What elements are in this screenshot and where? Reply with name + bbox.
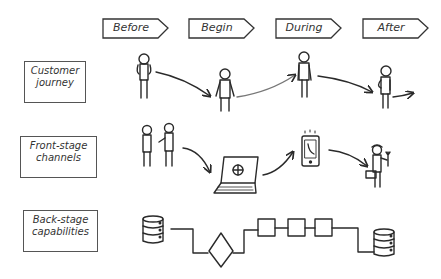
two-people-talking-icon [143,124,174,167]
stick-figure-before-icon [137,54,151,98]
process-box-icon [315,219,332,236]
journey-arrow-icon [393,93,413,97]
technician-with-toolbox-icon [366,145,390,187]
stick-figure-during-icon [298,52,311,97]
laptop-with-globe-icon [214,157,258,193]
channel-arrow-icon [263,152,293,175]
channel-arrow-icon [183,148,210,172]
wrench-icon [386,152,390,166]
connector-line [233,230,258,253]
process-box-icon [288,219,305,236]
process-box-icon [258,219,275,236]
journey-arrow-icon [237,75,295,97]
stick-figure-after-icon [379,66,392,108]
journey-arrow-icon [318,76,372,92]
journey-arrow-icon [156,72,210,96]
database-icon [143,216,163,243]
database-icon [374,229,394,256]
connector-line [332,228,374,252]
connector-line [171,229,208,253]
customer-journey-diagram: Before Begin During After Customer journ… [0,0,441,279]
channel-arrow-icon [329,150,367,166]
decision-diamond-icon [209,233,233,267]
stick-figure-begin-icon [216,69,234,111]
mobile-phone-call-icon [302,130,319,166]
